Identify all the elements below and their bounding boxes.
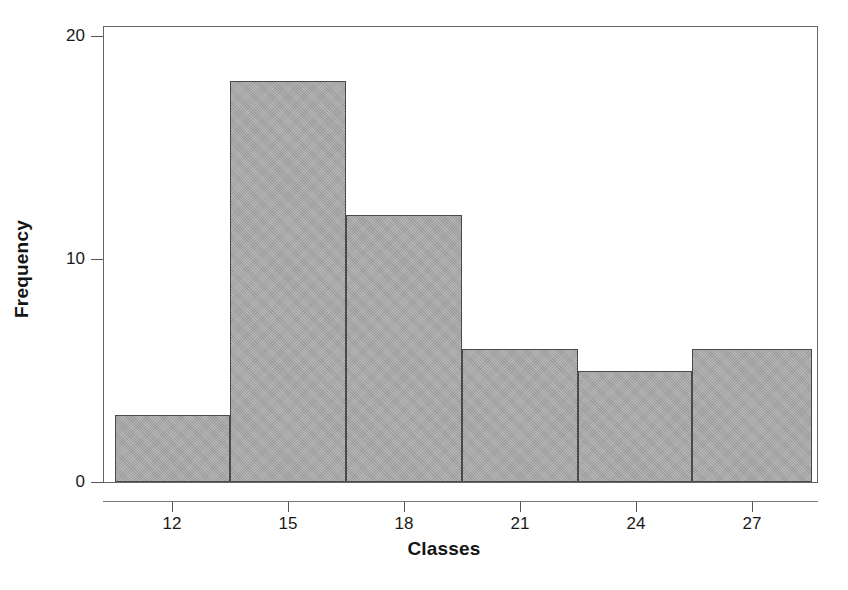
x-axis-rule — [103, 501, 818, 502]
y-tick-mark-10 — [91, 259, 103, 260]
x-tick-label-15: 15 — [258, 514, 318, 534]
x-tick-mark-12 — [172, 501, 173, 512]
y-tick-label-0: 0 — [40, 472, 85, 492]
x-axis-title-text: Classes — [407, 538, 480, 560]
x-tick-label-27: 27 — [722, 514, 782, 534]
x-tick-label-24: 24 — [606, 514, 666, 534]
x-tick-label-21: 21 — [490, 514, 550, 534]
y-tick-mark-20 — [91, 36, 103, 37]
x-tick-mark-24 — [636, 501, 637, 512]
x-tick-mark-18 — [404, 501, 405, 512]
y-axis-title: Frequency — [0, 0, 40, 590]
x-axis-title: Classes — [0, 538, 848, 560]
y-tick-label-20: 20 — [40, 26, 85, 46]
y-tick-label-10: 10 — [40, 249, 85, 269]
x-tick-mark-21 — [520, 501, 521, 512]
histogram-figure: Frequency 20 10 0 12 15 18 21 24 27 Clas… — [0, 0, 848, 590]
x-tick-mark-27 — [752, 501, 753, 512]
x-tick-label-18: 18 — [374, 514, 434, 534]
x-tick-label-12: 12 — [142, 514, 202, 534]
y-axis-title-text: Frequency — [11, 159, 33, 379]
y-tick-mark-0 — [91, 482, 103, 483]
x-tick-mark-15 — [288, 501, 289, 512]
plot-area — [103, 26, 818, 483]
